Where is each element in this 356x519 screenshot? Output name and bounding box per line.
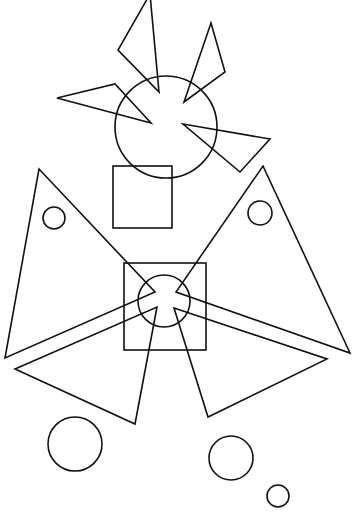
bottom-right-small-circle <box>267 485 289 507</box>
right-small-circle <box>248 201 272 225</box>
center-square <box>124 263 206 350</box>
top-right-triangle <box>184 23 225 102</box>
left-small-circle <box>43 207 65 229</box>
bottom-right-triangle <box>174 308 327 417</box>
diagram-canvas <box>0 0 356 519</box>
upper-left-triangle <box>57 84 151 123</box>
big-right-triangle <box>176 166 350 353</box>
upper-square <box>113 166 172 228</box>
bottom-left-triangle <box>15 307 157 424</box>
shape-drawing <box>0 0 356 519</box>
upper-right-triangle <box>183 124 270 172</box>
bottom-middle-circle <box>209 436 253 480</box>
bottom-left-circle <box>48 417 102 471</box>
